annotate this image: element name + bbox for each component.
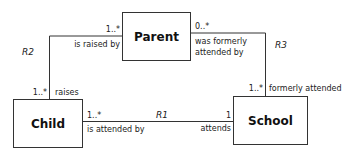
r3-label: R3 — [275, 40, 287, 50]
r3-school-multiplicity: 1..* — [249, 84, 263, 93]
class-school[interactable]: School — [234, 97, 308, 145]
r3-parent-multiplicity: 0..* — [195, 22, 209, 31]
r1-child-multiplicity: 1..* — [87, 111, 101, 120]
school-class-name: School — [248, 114, 293, 128]
r3-parent-phrase-line1: was formerly — [195, 37, 247, 46]
r1-label: R1 — [156, 110, 168, 120]
class-parent[interactable]: Parent — [123, 13, 191, 61]
class-diagram: Parent Child School R2 1..* is raised by… — [0, 0, 356, 154]
r2-child-multiplicity: 1..* — [33, 88, 47, 97]
child-class-name: Child — [31, 117, 65, 131]
class-child[interactable]: Child — [14, 100, 83, 148]
r3-parent-phrase-line2: attended by — [195, 48, 244, 57]
r1-child-phrase: is attended by — [87, 125, 145, 134]
parent-class-name: Parent — [134, 30, 179, 44]
r2-child-phrase: raises — [55, 88, 79, 97]
r1-school-phrase: attends — [201, 124, 231, 133]
r3-school-phrase: formerly attended — [269, 84, 342, 93]
r1-school-multiplicity: 1 — [226, 111, 231, 120]
r2-label: R2 — [22, 47, 34, 57]
r2-parent-multiplicity: 1..* — [106, 25, 120, 34]
r2-parent-phrase: is raised by — [74, 40, 120, 49]
